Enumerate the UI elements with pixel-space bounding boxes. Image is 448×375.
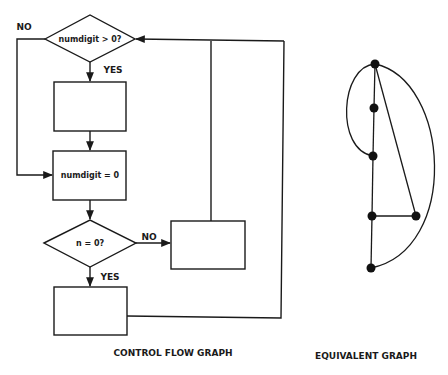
process-box-3	[54, 287, 127, 335]
process-box-1	[54, 82, 126, 131]
diagram-canvas: numdigit > 0? NO YES numdigit = 0 n = 0?…	[0, 0, 448, 375]
control-flow-graph-caption: CONTROL FLOW GRAPH	[113, 348, 232, 358]
node-5	[412, 212, 421, 221]
yes-label-1: YES	[102, 65, 122, 75]
node-2	[370, 104, 379, 113]
control-flow-graph	[17, 15, 284, 335]
equivalent-graph-caption: EQUIVALENT GRAPH	[315, 351, 417, 361]
process-2-text: numdigit = 0	[61, 171, 120, 180]
edge-1-2	[374, 64, 375, 108]
edge-4-6	[371, 216, 372, 268]
node-4	[368, 212, 377, 221]
yes-label-2: YES	[99, 272, 119, 282]
return-line-outer	[127, 41, 284, 318]
node-3	[369, 152, 378, 161]
no-label-2: NO	[141, 232, 157, 242]
node-1	[371, 60, 380, 69]
node-6	[367, 264, 376, 273]
process-box-4	[171, 221, 245, 269]
decision-2-text: n = 0?	[76, 239, 105, 248]
arrow-no-1	[17, 39, 52, 175]
no-label-1: NO	[16, 22, 32, 32]
edge-3-4	[372, 156, 373, 216]
edge-2-3	[373, 108, 374, 156]
equivalent-graph	[347, 64, 435, 268]
return-arrow-top	[136, 39, 284, 41]
decision-1-text: numdigit > 0?	[59, 35, 122, 44]
